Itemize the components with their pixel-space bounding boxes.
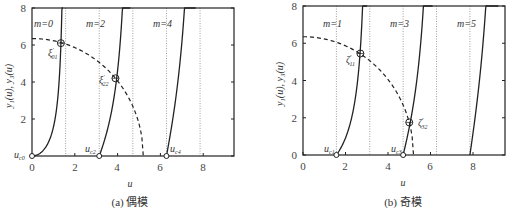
y-tick-0: 0 (292, 149, 298, 161)
x-tick-2: 2 (342, 160, 348, 172)
label-xi01: ξ′01 (48, 47, 58, 60)
y-tick-2: 2 (292, 112, 298, 124)
markers (334, 50, 413, 158)
x-tick-4: 4 (385, 160, 391, 172)
caption-a: (a) 偶模 (112, 196, 149, 209)
mode-label-m2: m=2 (86, 18, 105, 29)
y-tick-8: 8 (21, 2, 27, 14)
mode-label-m3: m=3 (390, 18, 409, 29)
y-tick-8: 8 (292, 0, 298, 12)
mode-label-m4: m=4 (153, 18, 172, 29)
chart-even-modes: 0 2 4 6 8 2 4 6 8 u y₁(u), y₃(u) m=0 m=2… (3, 2, 234, 209)
label-zeta11: ζ′11 (346, 54, 355, 67)
mode-label-m5: m=5 (457, 18, 476, 29)
label-uc1: uc1 (324, 143, 335, 155)
y-axis-label: y₁(u), y₃(u) (274, 61, 286, 107)
label-uc2: uc2 (85, 143, 96, 155)
label-zeta32: ζ′32 (418, 117, 427, 130)
x-tick-6: 6 (157, 161, 163, 173)
cutoff-marker (97, 154, 102, 159)
y-tick-6: 6 (292, 37, 298, 49)
x-axis-label: u (401, 177, 406, 188)
label-uc3: uc3 (391, 143, 402, 155)
mode-label-m0: m=0 (34, 18, 53, 29)
x-tick-0: 0 (300, 160, 306, 172)
y-tick-4: 4 (292, 75, 298, 87)
label-uc0: uc0 (14, 149, 25, 161)
dotted-verticals (66, 8, 200, 156)
mode-curve-m0 (32, 8, 63, 156)
label-uc4: uc4 (170, 143, 181, 155)
y-tick-6: 6 (21, 39, 27, 51)
cutoff-marker (30, 154, 35, 159)
label-xi22: ξ′22 (99, 74, 109, 87)
figure: 0 2 4 6 8 2 4 6 8 u y₁(u), y₃(u) m=0 m=2… (0, 0, 510, 211)
x-tick-8: 8 (470, 160, 476, 172)
x-tick-0: 0 (29, 161, 35, 173)
caption-b: (b) 奇模 (384, 196, 422, 209)
x-axis-label: u (128, 178, 133, 189)
mode-curve-m4 (166, 8, 195, 156)
x-tick-4: 4 (114, 161, 120, 173)
chart-odd-modes: 0 2 4 6 8 0 2 4 6 8 u y₁(u), y₃(u) m=1 m… (274, 0, 505, 209)
x-tick-2: 2 (72, 161, 78, 173)
mode-label-m1: m=1 (323, 18, 342, 29)
y-tick-4: 4 (21, 76, 27, 88)
mode-curves (32, 8, 196, 156)
x-tick-8: 8 (200, 161, 206, 173)
x-tick-6: 6 (427, 160, 433, 172)
y-tick-2: 2 (21, 113, 27, 125)
cutoff-marker (164, 154, 169, 159)
dashed-circle-curve (303, 37, 414, 155)
y-axis-label: y₁(u), y₃(u) (3, 63, 15, 109)
